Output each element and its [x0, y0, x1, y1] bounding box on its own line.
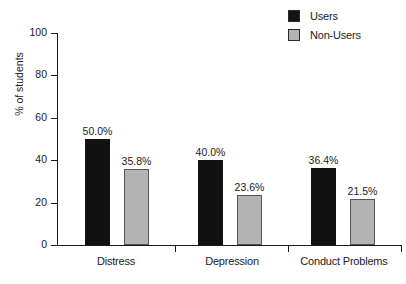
- x-axis-label-conduct-problems: Conduct Problems: [284, 254, 404, 268]
- bar-distress-non-users: 35.8%: [124, 169, 149, 245]
- bar-value-conduct-problems-non-users: 21.5%: [348, 185, 378, 197]
- plot-area: 50.0% 35.8% 40.0% 23.6% 36.4% 21.5%: [57, 33, 401, 245]
- x-axis-label-depression: Depression: [172, 254, 292, 268]
- bar-value-distress-non-users: 35.8%: [122, 155, 152, 167]
- bar-depression-users: 40.0%: [198, 160, 223, 245]
- x-axis-label-distress: Distress: [56, 254, 176, 268]
- legend-label-users: Users: [310, 10, 338, 22]
- y-tick-0: 0: [51, 245, 57, 246]
- legend-swatch-users-icon: [288, 10, 300, 22]
- x-axis-line: [57, 245, 402, 246]
- y-tick-label-60: 60: [35, 111, 47, 124]
- bar-conduct-problems-users: 36.4%: [311, 168, 336, 245]
- y-tick-label-40: 40: [35, 153, 47, 166]
- legend-item-users: Users: [288, 8, 400, 24]
- y-tick-label-80: 80: [35, 68, 47, 81]
- bar-value-depression-users: 40.0%: [196, 146, 226, 158]
- y-axis-title: % of students: [13, 24, 25, 144]
- bar-depression-non-users: 23.6%: [237, 195, 262, 245]
- x-tick-separator-2: [288, 246, 289, 252]
- x-tick-end: [401, 246, 402, 252]
- y-tick-label-100: 100: [29, 26, 47, 39]
- bar-value-conduct-problems-users: 36.4%: [309, 154, 339, 166]
- bar-distress-users: 50.0%: [85, 139, 110, 245]
- x-tick-separator-1: [175, 246, 176, 252]
- y-tick-label-0: 0: [41, 238, 47, 251]
- bar-conduct-problems-non-users: 21.5%: [350, 199, 375, 245]
- bar-value-depression-non-users: 23.6%: [235, 181, 265, 193]
- bar-value-distress-users: 50.0%: [83, 125, 113, 137]
- bar-chart: Users Non-Users % of students 100 80 60 …: [0, 0, 406, 284]
- y-tick-label-20: 20: [35, 196, 47, 209]
